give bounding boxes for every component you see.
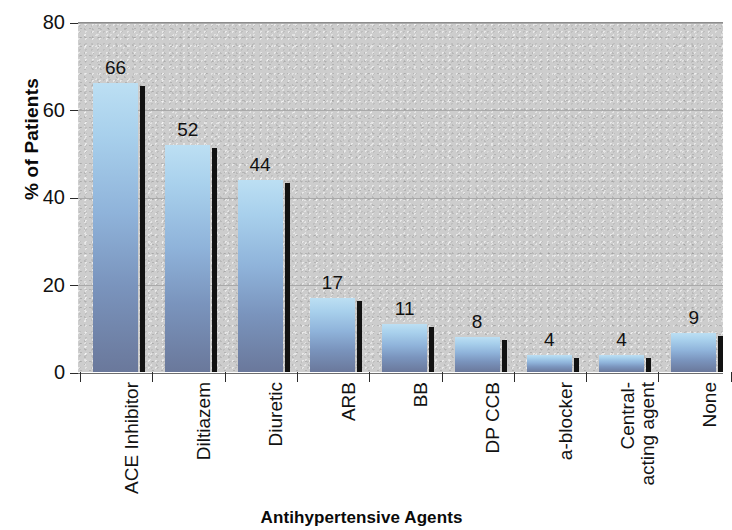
y-gridline (78, 373, 723, 374)
x-axis-tick (80, 372, 81, 382)
bar-value-label: 11 (382, 298, 427, 320)
bar-value-label: 44 (238, 154, 283, 176)
bar-value-label: 4 (599, 329, 644, 351)
bar[interactable] (527, 355, 572, 373)
bar[interactable] (455, 337, 500, 372)
bar[interactable] (599, 355, 644, 373)
x-axis-tick (442, 372, 443, 382)
x-axis-category-text: ACE Inhibitor (122, 382, 142, 494)
bar-group: 66 (80, 22, 152, 372)
bar-shadow (646, 358, 651, 373)
x-axis-category-text: Diltiazem (194, 382, 214, 460)
bar[interactable] (93, 83, 138, 372)
bar-group: 8 (442, 22, 514, 372)
x-axis-tick (514, 372, 515, 382)
x-axis-tick (586, 372, 587, 382)
bar[interactable] (238, 180, 283, 373)
bar-group: 52 (152, 22, 224, 372)
bar-group: 4 (586, 22, 658, 372)
bar-group: 9 (658, 22, 730, 372)
y-axis-tick (70, 23, 78, 24)
x-axis-category-text: Central- acting agent (618, 382, 658, 486)
bar[interactable] (671, 333, 716, 372)
bar-group: 11 (369, 22, 441, 372)
y-axis-tick (70, 110, 78, 111)
x-axis-category-text: ARB (339, 382, 359, 421)
bar-shadow (502, 340, 507, 372)
y-axis-tick (70, 373, 78, 374)
bar[interactable] (310, 298, 355, 372)
y-axis-tick (70, 198, 78, 199)
bar-shadow (718, 336, 723, 372)
bar-value-label: 4 (527, 329, 572, 351)
x-axis-category-text: Diuretic (266, 382, 286, 446)
x-axis-title: Antihypertensive Agents (0, 508, 723, 528)
bar[interactable] (165, 145, 210, 373)
y-axis-tick-label: 40 (43, 186, 65, 209)
x-axis-category-text: DP CCB (483, 382, 503, 453)
x-axis-tick (152, 372, 153, 382)
bar-group: 17 (297, 22, 369, 372)
bar-shadow (285, 183, 290, 373)
x-axis-tick (369, 372, 370, 382)
y-axis-tick-label: 0 (54, 361, 65, 384)
x-axis-category-text: BB (411, 382, 431, 407)
bar-value-label: 66 (93, 57, 138, 79)
bar-shadow (140, 86, 145, 372)
bar-value-label: 17 (310, 272, 355, 294)
y-axis-tick-label: 20 (43, 274, 65, 297)
y-axis-tick-label: 60 (43, 99, 65, 122)
y-axis-title: % of Patients (21, 39, 43, 239)
x-axis-tick (297, 372, 298, 382)
x-axis-category-text: None (700, 382, 720, 427)
bar-value-label: 8 (455, 311, 500, 333)
bar-shadow (212, 148, 217, 373)
y-axis-tick-label: 80 (43, 11, 65, 34)
bar-value-label: 52 (165, 119, 210, 141)
bar-group: 4 (514, 22, 586, 372)
bar-value-label: 9 (671, 307, 716, 329)
bar-shadow (574, 358, 579, 373)
x-axis-tick (225, 372, 226, 382)
bar[interactable] (382, 324, 427, 372)
bar-shadow (357, 301, 362, 372)
x-axis-category-text: a-blocker (556, 382, 576, 460)
bar-shadow (429, 327, 434, 372)
y-axis-tick (70, 285, 78, 286)
bar-group: 44 (225, 22, 297, 372)
x-axis-tick (658, 372, 659, 382)
plot-area: 02040608066524417118449 (78, 22, 723, 372)
